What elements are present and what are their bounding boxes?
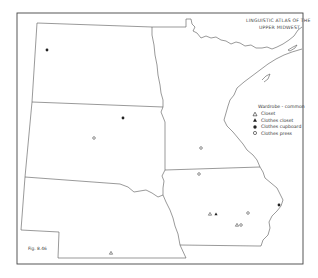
map-frame <box>17 13 303 264</box>
data-markers <box>46 49 281 255</box>
hollow-circle-marker <box>200 147 203 150</box>
hollow-circle-marker <box>198 173 201 176</box>
map-canvas <box>0 0 318 278</box>
hollow-circle-marker <box>240 224 243 227</box>
border-sd-ne <box>25 177 163 197</box>
hollow-circle-marker <box>93 137 96 140</box>
border-ia-east <box>260 167 283 246</box>
border-ne-ia <box>163 195 186 258</box>
border-sd-mn <box>161 107 165 170</box>
hollow-circle-icon <box>252 130 258 136</box>
state-borders <box>21 19 302 258</box>
filled-circle-icon <box>252 124 258 130</box>
border-nd-west <box>32 23 37 102</box>
legend: Wardrobe - common Closet Clothes closet … <box>252 104 305 137</box>
filled-circle-marker <box>46 49 49 52</box>
keweenaw-shore <box>262 74 270 82</box>
border-nd-sd <box>32 102 163 107</box>
atlas-title-line-2: UPPER MIDWEST <box>259 25 300 30</box>
filled-triangle-icon <box>252 117 258 123</box>
border-sd-ia <box>162 170 165 195</box>
hollow-triangle-icon <box>252 111 258 117</box>
legend-item-clothes-press: Clothes press <box>252 130 305 137</box>
border-ia-south <box>180 245 261 246</box>
legend-label: Clothes closet <box>261 118 293 123</box>
border-mn-ia <box>165 167 260 170</box>
legend-label: Clothes cupboard <box>261 124 301 129</box>
border-nd-mn <box>152 27 163 107</box>
hollow-triangle-marker <box>235 223 238 226</box>
lake-superior-shore <box>237 49 302 88</box>
filled-circle-marker <box>122 117 125 120</box>
figure-label: Fig. 8.46 <box>28 246 47 251</box>
border-north <box>37 19 302 49</box>
filled-circle-marker <box>278 204 281 207</box>
legend-title: Wardrobe - common <box>258 104 305 109</box>
atlas-title-line-1: LINGUISTIC ATLAS OF THE <box>246 18 311 23</box>
hollow-circle-marker <box>247 212 250 215</box>
border-sd-west <box>25 102 32 177</box>
hollow-triangle-marker <box>109 251 112 254</box>
isle-royale <box>288 45 297 51</box>
filled-triangle-marker <box>214 212 217 215</box>
hollow-triangle-marker <box>208 212 211 215</box>
legend-label: Clothes press <box>261 131 292 136</box>
legend-label: Closet <box>261 111 275 116</box>
